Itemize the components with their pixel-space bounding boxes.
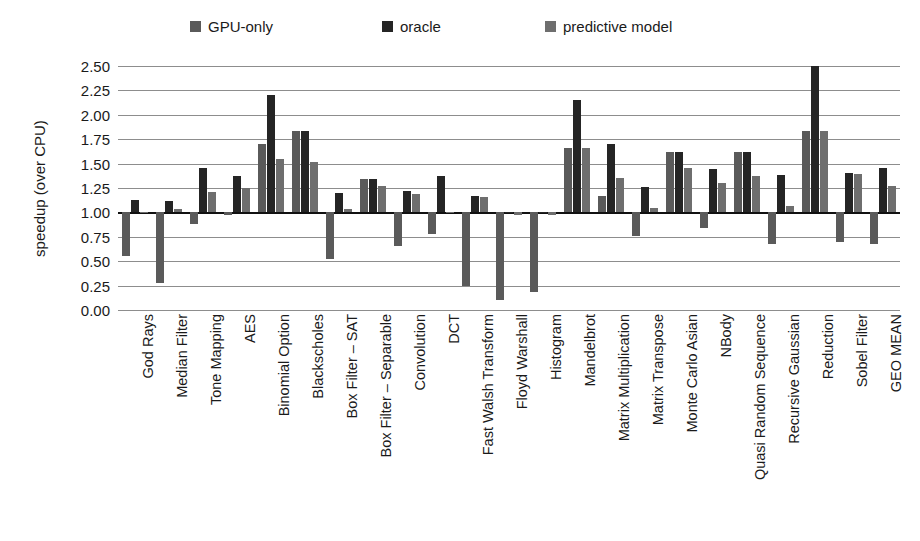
legend-item-predictive-model: predictive model (545, 18, 672, 35)
bar (258, 144, 266, 212)
y-axis-title: speedup (over CPU) (31, 64, 48, 314)
chart-legend: GPU-onlyoraclepredictive model (0, 18, 920, 40)
x-tick-label: Monte Carlo Asian (684, 314, 700, 432)
bar (242, 188, 250, 212)
bar (548, 212, 556, 215)
bar (514, 212, 522, 215)
bar (718, 183, 726, 212)
legend-swatch-icon (545, 21, 556, 32)
bar (437, 176, 445, 212)
bar (641, 187, 649, 212)
x-tick-label: Median Filter (174, 314, 190, 398)
legend-item-oracle: oracle (382, 18, 441, 35)
bar (870, 212, 878, 243)
bar (335, 193, 343, 213)
bar (888, 186, 896, 212)
bar (326, 212, 334, 259)
y-tick-label: 2.25 (81, 82, 110, 99)
bar (616, 178, 624, 212)
legend-swatch-icon (190, 21, 201, 32)
bar (709, 169, 717, 212)
x-axis-tick-labels: God RaysMedian FilterTone MappingAESBino… (118, 314, 900, 514)
x-tick-label: Floyd Warshall (514, 314, 530, 409)
bar (131, 200, 139, 213)
bar (378, 186, 386, 212)
bar (836, 212, 844, 241)
x-tick-label: Tone Mapping (208, 314, 224, 405)
x-tick-label: Reduction (820, 314, 836, 379)
x-tick-label: NBody (718, 314, 734, 358)
y-tick-label: 1.00 (81, 204, 110, 221)
bar (190, 212, 198, 224)
bar (428, 212, 436, 233)
legend-item-gpu-only: GPU-only (190, 18, 273, 35)
bar (394, 212, 402, 245)
bar (165, 201, 173, 213)
bar (140, 212, 148, 213)
bar (675, 152, 683, 213)
bar (403, 191, 411, 212)
bar (684, 168, 692, 212)
bar (122, 212, 130, 256)
bar (582, 148, 590, 212)
x-tick-label: Blackscholes (310, 314, 326, 399)
bar (700, 212, 708, 228)
bar (854, 174, 862, 212)
bar (879, 168, 887, 212)
bar (632, 212, 640, 235)
x-tick-label: Quasi Random Sequence (752, 314, 768, 480)
bar (777, 175, 785, 212)
bar (369, 179, 377, 212)
y-tick-label: 2.00 (81, 106, 110, 123)
y-tick-label: 1.75 (81, 131, 110, 148)
gridline (118, 139, 900, 140)
bar (607, 144, 615, 212)
x-tick-label: DCT (446, 314, 462, 344)
x-tick-label: Box Filter – Separable (378, 314, 394, 457)
legend-label: GPU-only (208, 18, 273, 35)
bar (208, 192, 216, 212)
x-tick-label: Matrix Multiplication (616, 314, 632, 441)
gridline (118, 310, 900, 311)
x-tick-label: Matrix Transpose (650, 314, 666, 425)
x-tick-label: Mandelbrot (582, 314, 598, 387)
y-tick-label: 0.75 (81, 228, 110, 245)
y-tick-label: 0.25 (81, 277, 110, 294)
bar (310, 162, 318, 213)
bar (174, 209, 182, 212)
bar (301, 131, 309, 212)
bar (743, 152, 751, 213)
plot-area (118, 66, 900, 310)
bar (292, 131, 300, 212)
legend-label: oracle (400, 18, 441, 35)
bar (224, 212, 232, 215)
x-tick-label: Histogram (548, 314, 564, 380)
y-tick-label: 2.50 (81, 58, 110, 75)
bar (505, 212, 513, 213)
bar (199, 168, 207, 212)
gridline (118, 164, 900, 165)
y-tick-label: 0.50 (81, 253, 110, 270)
gridline (118, 261, 900, 262)
legend-label: predictive model (563, 18, 672, 35)
bar (156, 212, 164, 282)
x-tick-label: AES (242, 314, 258, 343)
speedup-bar-chart: GPU-onlyoraclepredictive model speedup (… (0, 0, 920, 541)
bar (412, 194, 420, 213)
x-tick-label: Binomial Option (276, 314, 292, 416)
bar (276, 159, 284, 213)
bar (344, 209, 352, 212)
bar (564, 148, 572, 212)
bar (496, 212, 504, 300)
gridline (118, 115, 900, 116)
bar (530, 212, 538, 292)
gridline (118, 66, 900, 67)
y-tick-label: 1.50 (81, 155, 110, 172)
bar (471, 196, 479, 213)
bar (598, 196, 606, 213)
bar (446, 212, 454, 213)
bar (734, 152, 742, 213)
bar (752, 176, 760, 212)
legend-swatch-icon (382, 21, 393, 32)
gridline (118, 90, 900, 91)
